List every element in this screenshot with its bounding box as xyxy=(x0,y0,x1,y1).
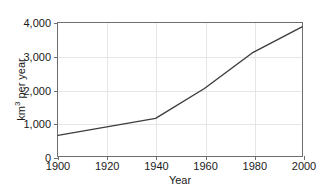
y-axis-title-exponent: 3 xyxy=(13,102,22,106)
plot-area: 01,0002,0003,0004,0001900192019401960198… xyxy=(57,22,303,157)
line-chart-figure: 01,0002,0003,0004,0001900192019401960198… xyxy=(0,0,323,193)
x-axis-tick-label: 1920 xyxy=(95,161,119,172)
y-axis-title-unit: km xyxy=(15,106,27,121)
y-axis-title-rest: per year xyxy=(15,58,27,101)
x-axis-tick-label: 1900 xyxy=(46,161,70,172)
x-axis-tick-label: 1960 xyxy=(193,161,217,172)
x-axis-tick-label: 1940 xyxy=(144,161,168,172)
x-axis-tick-label: 1980 xyxy=(243,161,267,172)
y-axis-title: km3 per year xyxy=(14,22,28,157)
data-series-line xyxy=(58,23,302,156)
x-axis-title: Year xyxy=(57,175,303,186)
x-axis-tick-label: 2000 xyxy=(292,161,316,172)
